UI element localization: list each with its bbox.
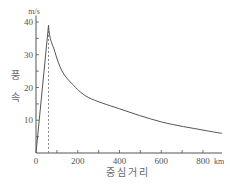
- axis-labels: m/s km 풍 속 중심거리: [11, 7, 225, 178]
- x-axis-title: 중심거리: [106, 167, 150, 178]
- x-tick-label: 800: [196, 156, 210, 166]
- x-tick-label: 200: [71, 156, 85, 166]
- wind-speed-chart: 020040060080010203040 m/s km 풍 속 중심거리: [0, 0, 230, 189]
- y-unit-label: m/s: [28, 7, 40, 16]
- x-tick-label: 400: [113, 156, 127, 166]
- y-tick-label: 20: [24, 83, 34, 93]
- plot-area: [36, 25, 222, 153]
- y-axis-title-char-1: 풍: [11, 70, 20, 81]
- y-tick-label: 40: [24, 17, 34, 27]
- y-tick-label: 10: [24, 115, 34, 125]
- x-tick-label: 0: [34, 156, 39, 166]
- x-unit-label: km: [214, 157, 225, 166]
- y-axis-title-char-2: 속: [11, 92, 20, 103]
- axes: 020040060080010203040: [24, 15, 222, 166]
- x-tick-label: 600: [155, 156, 169, 166]
- y-tick-label: 30: [24, 50, 34, 60]
- wind-speed-curve: [36, 25, 222, 153]
